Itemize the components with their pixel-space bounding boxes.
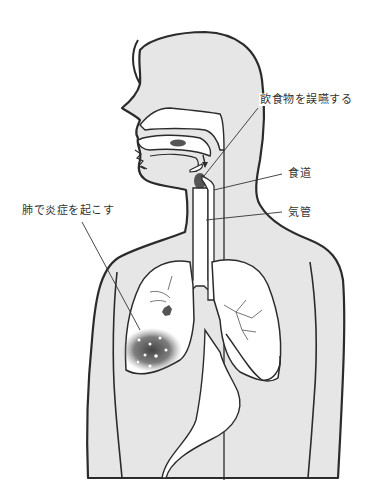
- label-aspiration: 飲食物を誤嚥する: [259, 93, 353, 106]
- inflammation-area: [122, 328, 182, 372]
- aspiration-diagram: 飲食物を誤嚥する 食道 気管 肺で炎症を起こす: [0, 0, 370, 482]
- label-pneumonia: 肺で炎症を起こす: [21, 204, 115, 217]
- food-bolus-mouth: [170, 140, 186, 147]
- label-trachea: 気管: [287, 206, 312, 219]
- label-esophagus: 食道: [287, 167, 312, 180]
- anatomy-illustration: [0, 0, 370, 482]
